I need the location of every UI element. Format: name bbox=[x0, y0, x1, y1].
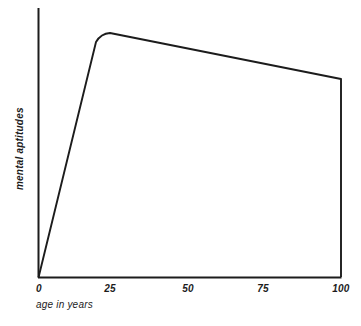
x-tick-label-25: 25 bbox=[104, 283, 116, 294]
x-axis-title: age in years bbox=[36, 299, 93, 310]
chart-canvas bbox=[0, 0, 361, 326]
x-tick-label-50: 50 bbox=[182, 283, 194, 294]
x-tick-label-75: 75 bbox=[257, 283, 269, 294]
x-tick-label-0: 0 bbox=[36, 283, 42, 294]
chart-figure: 0 25 50 75 100 age in years mental aptit… bbox=[0, 0, 361, 326]
x-tick-label-100: 100 bbox=[332, 283, 349, 294]
y-axis-title: mental aptitudes bbox=[14, 88, 27, 190]
